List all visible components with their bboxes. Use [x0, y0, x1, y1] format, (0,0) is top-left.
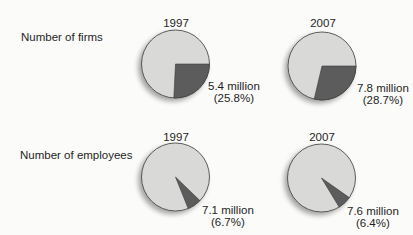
percent-label: (6.7%)	[202, 216, 254, 228]
annotation-employees-2007: 7.6 million (6.4%)	[347, 205, 399, 229]
percent-label: (25.8%)	[208, 92, 260, 104]
pie-firms-1997	[142, 30, 210, 98]
value-label: 7.6 million	[347, 205, 399, 217]
value-label: 7.1 million	[202, 204, 254, 216]
pie-firms-2007	[288, 32, 356, 100]
annotation-firms-1997: 5.4 million (25.8%)	[208, 80, 260, 104]
pie-slice-firms-1997	[174, 64, 210, 98]
pie-employees-2007	[288, 144, 356, 212]
value-label: 7.8 million	[357, 82, 409, 94]
percent-label: (28.7%)	[357, 94, 409, 106]
pie-charts	[0, 0, 413, 235]
pie-employees-1997	[142, 143, 210, 211]
value-label: 5.4 million	[208, 80, 260, 92]
annotation-employees-1997: 7.1 million (6.7%)	[202, 204, 254, 228]
annotation-firms-2007: 7.8 million (28.7%)	[357, 82, 409, 106]
percent-label: (6.4%)	[347, 217, 399, 229]
